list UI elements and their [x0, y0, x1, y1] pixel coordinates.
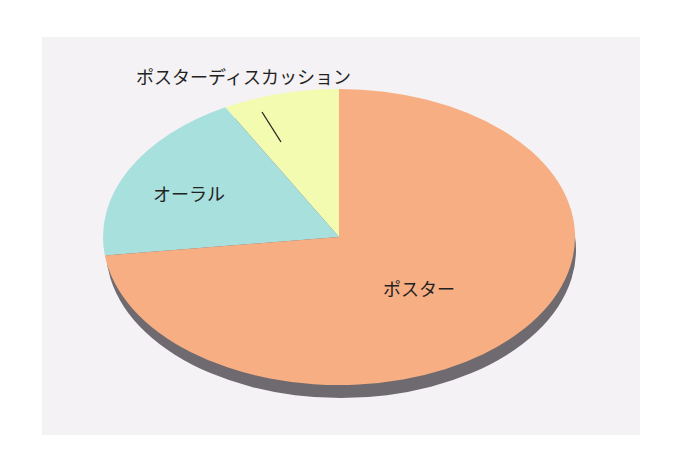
label-oral: オーラル [153, 184, 225, 205]
pie-chart: ポスターディスカッション オーラル ポスター [0, 0, 673, 460]
label-poster: ポスター [383, 279, 455, 300]
pie-slices [103, 89, 575, 385]
label-poster-discussion: ポスターディスカッション [136, 67, 351, 88]
